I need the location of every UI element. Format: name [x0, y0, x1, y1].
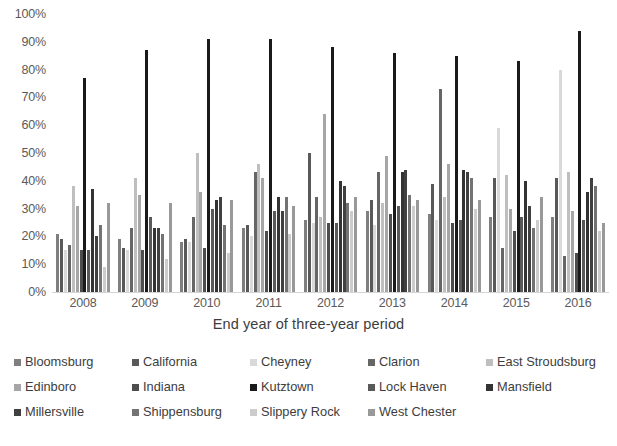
bar-chart: 0%10%20%30%40%50%60%70%80%90%100% 200820…: [0, 0, 617, 446]
bar: [95, 236, 98, 292]
bar: [412, 206, 415, 292]
bar: [505, 175, 508, 292]
legend-item-lock-haven[interactable]: Lock Haven: [368, 381, 486, 394]
bar: [594, 186, 597, 292]
bar: [578, 31, 581, 292]
bar: [145, 50, 148, 292]
bar: [169, 203, 172, 292]
bar: [555, 178, 558, 292]
legend-row: BloomsburgCaliforniaCheyneyClarionEast S…: [14, 350, 614, 375]
bar: [520, 217, 523, 292]
legend-label: East Stroudsburg: [497, 356, 596, 369]
bar: [459, 220, 462, 292]
bar: [532, 228, 535, 292]
bar: [528, 206, 531, 292]
bar: [524, 181, 527, 292]
bar: [68, 245, 71, 292]
legend-item-kutztown[interactable]: Kutztown: [250, 381, 368, 394]
bar: [370, 200, 373, 292]
legend-item-clarion[interactable]: Clarion: [368, 356, 486, 369]
bar: [227, 253, 230, 292]
bar: [199, 192, 202, 292]
bar: [141, 250, 144, 292]
bar: [223, 225, 226, 292]
x-axis-line: [52, 292, 609, 293]
bar-cluster: [423, 14, 485, 292]
bar: [455, 56, 458, 292]
bar: [130, 228, 133, 292]
legend-item-mansfield[interactable]: Mansfield: [486, 381, 606, 394]
bar: [397, 206, 400, 292]
x-axis-tick-label: 2009: [131, 296, 158, 310]
bar: [470, 178, 473, 292]
legend-item-indiana[interactable]: Indiana: [132, 381, 250, 394]
bar: [246, 225, 249, 292]
bar: [366, 211, 369, 292]
y-axis-tick-label: 40%: [22, 175, 46, 188]
bar: [343, 186, 346, 292]
legend-item-shippensburg[interactable]: Shippensburg: [132, 406, 250, 419]
bar: [60, 239, 63, 292]
legend-swatch-icon: [486, 384, 493, 391]
legend-label: Millersville: [25, 406, 84, 419]
bar: [184, 239, 187, 292]
bar: [265, 231, 268, 292]
legend-item-slippery-rock[interactable]: Slippery Rock: [250, 406, 368, 419]
legend-swatch-icon: [250, 384, 257, 391]
bar: [203, 248, 206, 292]
x-axis-tick-label: 2013: [379, 296, 406, 310]
bar: [153, 228, 156, 292]
x-axis-title: End year of three-year period: [0, 316, 617, 332]
legend-swatch-icon: [132, 384, 139, 391]
bar: [122, 248, 125, 292]
legend-item-west-chester[interactable]: West Chester: [368, 406, 486, 419]
bar: [126, 250, 129, 292]
bar: [80, 250, 83, 292]
bar: [517, 61, 520, 292]
bar: [474, 209, 477, 292]
bar: [497, 128, 500, 292]
bar: [451, 223, 454, 293]
bar: [157, 228, 160, 292]
bar: [540, 197, 543, 292]
bar: [56, 234, 59, 292]
legend-item-california[interactable]: California: [132, 356, 250, 369]
y-axis-tick-label: 50%: [22, 147, 46, 160]
bar: [211, 209, 214, 292]
bar-cluster: [485, 14, 547, 292]
bar: [288, 234, 291, 292]
legend-label: Slippery Rock: [261, 406, 340, 419]
y-axis-tick-label: 30%: [22, 202, 46, 215]
bar-cluster: [300, 14, 362, 292]
bar: [443, 197, 446, 292]
bar: [285, 197, 288, 292]
plot-wrapper: 0%10%20%30%40%50%60%70%80%90%100% 200820…: [0, 0, 617, 300]
bar: [501, 248, 504, 292]
legend-swatch-icon: [14, 384, 21, 391]
legend-item-edinboro[interactable]: Edinboro: [14, 381, 132, 394]
bar: [192, 217, 195, 292]
x-axis-tick-label: 2010: [193, 296, 220, 310]
bar: [431, 184, 434, 292]
legend-label: Edinboro: [25, 381, 76, 394]
bar-cluster: [238, 14, 300, 292]
bar: [478, 200, 481, 292]
legend-item-millersville[interactable]: Millersville: [14, 406, 132, 419]
legend-item-east-stroudsburg[interactable]: East Stroudsburg: [486, 356, 606, 369]
legend-item-cheyney[interactable]: Cheyney: [250, 356, 368, 369]
bar: [536, 220, 539, 292]
bar: [180, 242, 183, 292]
bar-cluster: [361, 14, 423, 292]
bar: [242, 228, 245, 292]
bar: [64, 250, 67, 292]
bar: [161, 234, 164, 292]
legend-item-bloomsburg[interactable]: Bloomsburg: [14, 356, 132, 369]
bar: [254, 172, 257, 292]
bar: [118, 239, 121, 292]
bar: [134, 178, 137, 292]
legend-swatch-icon: [14, 409, 21, 416]
bar: [551, 217, 554, 292]
bar: [401, 172, 404, 292]
legend-swatch-icon: [250, 409, 257, 416]
bar: [261, 178, 264, 292]
